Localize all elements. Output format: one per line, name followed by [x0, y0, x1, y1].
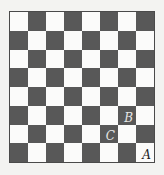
board-square	[64, 12, 82, 31]
board-square	[64, 106, 82, 125]
board-square	[136, 68, 154, 87]
board-square	[100, 50, 118, 69]
board-square	[118, 87, 136, 106]
square-label: B	[124, 112, 133, 124]
board-square	[28, 143, 46, 162]
board-square	[100, 87, 118, 106]
board-square	[28, 87, 46, 106]
board-square	[46, 143, 64, 162]
checkerboard: BCA	[9, 11, 155, 163]
square-label: A	[142, 149, 151, 161]
board-square	[64, 31, 82, 50]
board-square	[82, 106, 100, 125]
board-square	[136, 50, 154, 69]
board-square	[10, 125, 28, 144]
board-square	[118, 31, 136, 50]
board-square	[136, 31, 154, 50]
board-square	[100, 143, 118, 162]
board-square	[118, 125, 136, 144]
board-square	[10, 143, 28, 162]
board-square	[100, 31, 118, 50]
board-square	[82, 68, 100, 87]
board-square	[46, 87, 64, 106]
board-square	[100, 12, 118, 31]
board-square	[82, 87, 100, 106]
board-square	[10, 12, 28, 31]
board-square	[136, 12, 154, 31]
board-square	[64, 87, 82, 106]
board-square: C	[100, 125, 118, 144]
board-square	[82, 12, 100, 31]
board-square	[46, 68, 64, 87]
board-square	[46, 106, 64, 125]
board-square	[28, 68, 46, 87]
board-square	[28, 12, 46, 31]
board-square	[46, 12, 64, 31]
board-square: B	[118, 106, 136, 125]
board-square	[64, 50, 82, 69]
board-square	[28, 125, 46, 144]
square-label: C	[106, 130, 115, 142]
board-square	[10, 50, 28, 69]
board-square	[28, 50, 46, 69]
board-square	[46, 50, 64, 69]
board-square	[64, 143, 82, 162]
board-square	[118, 12, 136, 31]
board-square	[46, 125, 64, 144]
board-square	[118, 68, 136, 87]
board-square	[118, 50, 136, 69]
board-square	[10, 68, 28, 87]
board-square	[46, 31, 64, 50]
board-square	[136, 106, 154, 125]
board-square	[136, 125, 154, 144]
board-square	[100, 106, 118, 125]
board-square	[28, 31, 46, 50]
board-square	[64, 125, 82, 144]
board-square	[28, 106, 46, 125]
board-square	[82, 125, 100, 144]
board-square	[10, 87, 28, 106]
board-square	[118, 143, 136, 162]
board-square: A	[136, 143, 154, 162]
board-square	[64, 68, 82, 87]
board-square	[82, 50, 100, 69]
board-square	[136, 87, 154, 106]
board-square	[82, 31, 100, 50]
board-square	[100, 68, 118, 87]
board-square	[82, 143, 100, 162]
board-square	[10, 31, 28, 50]
board-square	[10, 106, 28, 125]
